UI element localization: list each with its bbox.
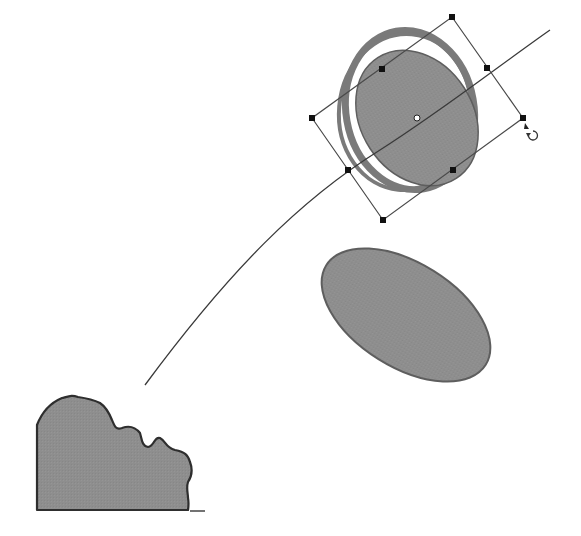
handle-bottom-mid[interactable] [450, 167, 456, 173]
rotation-center-point[interactable] [414, 115, 420, 121]
handle-right-corner[interactable] [520, 115, 526, 121]
handle-left-mid[interactable] [345, 167, 351, 173]
handle-top-mid[interactable] [379, 66, 385, 72]
rotate-cursor-icon [524, 123, 537, 140]
canvas-svg[interactable] [0, 0, 581, 536]
drawing-canvas[interactable] [0, 0, 581, 536]
handle-bottom-corner[interactable] [380, 217, 386, 223]
blob-shape[interactable] [37, 396, 192, 510]
second-ellipse[interactable] [299, 221, 514, 409]
handle-right-mid[interactable] [484, 65, 490, 71]
handle-top-corner[interactable] [449, 14, 455, 20]
handle-left-corner[interactable] [309, 115, 315, 121]
